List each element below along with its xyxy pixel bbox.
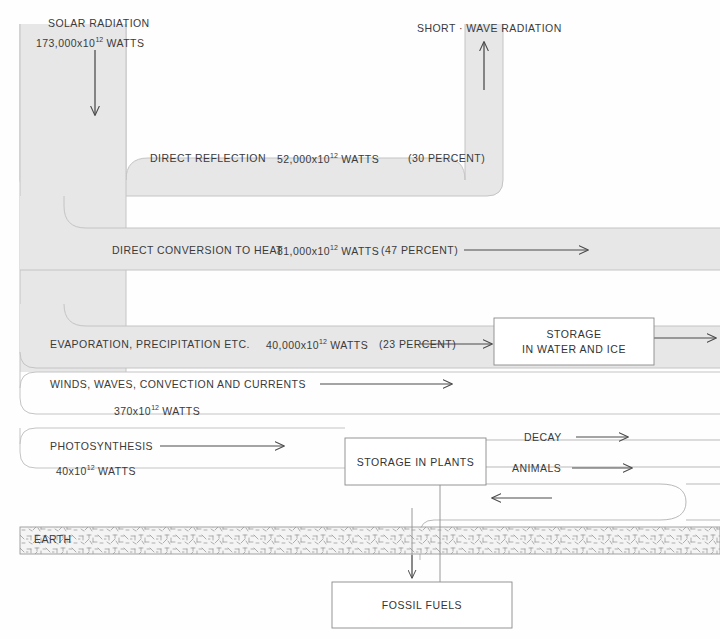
label-solar-radiation: SOLAR RADIATION bbox=[48, 17, 150, 29]
direct-reflection-unit: WATTS bbox=[338, 153, 379, 165]
label-direct-reflection: DIRECT REFLECTION bbox=[150, 152, 266, 164]
label-direct-conversion-value: 81,000x1012 WATTS bbox=[277, 244, 379, 257]
label-decay: DECAY bbox=[524, 431, 562, 443]
diagram-canvas bbox=[0, 0, 720, 639]
evaporation-number: 40,000x10 bbox=[266, 339, 319, 351]
label-evaporation-percent: (23 PERCENT) bbox=[379, 338, 456, 350]
label-direct-conversion-percent: (47 PERCENT) bbox=[381, 244, 458, 256]
solar-value-number: 173,000x10 bbox=[36, 37, 95, 49]
storage-water-ice-line2: IN WATER AND ICE bbox=[494, 342, 654, 357]
label-earth: EARTH bbox=[34, 533, 72, 545]
label-winds-value: 370x1012 WATTS bbox=[114, 404, 200, 417]
label-direct-reflection-value: 52,000x1012 WATTS bbox=[277, 152, 379, 165]
direct-reflection-number: 52,000x10 bbox=[277, 153, 330, 165]
photosynthesis-unit: WATTS bbox=[95, 465, 136, 477]
energy-flow-diagram: SOLAR RADIATION 173,000x1012 WATTS SHORT… bbox=[0, 0, 720, 639]
label-evaporation-value: 40,000x1012 WATTS bbox=[266, 338, 368, 351]
label-photosynthesis-value: 40x1012 WATTS bbox=[56, 464, 136, 477]
photosynthesis-exponent: 12 bbox=[87, 464, 95, 471]
label-animals: ANIMALS bbox=[512, 462, 561, 474]
label-direct-reflection-percent: (30 PERCENT) bbox=[408, 152, 485, 164]
winds-number: 370x10 bbox=[114, 405, 151, 417]
evaporation-unit: WATTS bbox=[327, 339, 368, 351]
label-evaporation: EVAPORATION, PRECIPITATION ETC. bbox=[50, 338, 250, 350]
photosynthesis-number: 40x10 bbox=[56, 465, 87, 477]
direct-conversion-exponent: 12 bbox=[330, 244, 338, 251]
winds-unit: WATTS bbox=[159, 405, 200, 417]
label-short-wave-radiation: SHORT · WAVE RADIATION bbox=[417, 22, 562, 34]
label-direct-conversion: DIRECT CONVERSION TO HEAT bbox=[112, 244, 283, 256]
storage-water-ice-line1: STORAGE bbox=[494, 327, 654, 342]
box-label-storage-plants: STORAGE IN PLANTS bbox=[345, 456, 486, 468]
direct-reflection-exponent: 12 bbox=[330, 152, 338, 159]
earth-band bbox=[20, 527, 720, 554]
box-label-fossil-fuels: FOSSIL FUELS bbox=[332, 599, 512, 611]
winds-exponent: 12 bbox=[151, 404, 159, 411]
label-winds: WINDS, WAVES, CONVECTION AND CURRENTS bbox=[50, 378, 306, 390]
label-solar-value: 173,000x1012 WATTS bbox=[36, 36, 144, 49]
box-label-storage-water-ice: STORAGE IN WATER AND ICE bbox=[494, 327, 654, 357]
direct-conversion-number: 81,000x10 bbox=[277, 245, 330, 257]
direct-conversion-unit: WATTS bbox=[338, 245, 379, 257]
solar-value-unit: WATTS bbox=[103, 37, 144, 49]
label-photosynthesis: PHOTOSYNTHESIS bbox=[50, 440, 153, 452]
evaporation-exponent: 12 bbox=[319, 338, 327, 345]
